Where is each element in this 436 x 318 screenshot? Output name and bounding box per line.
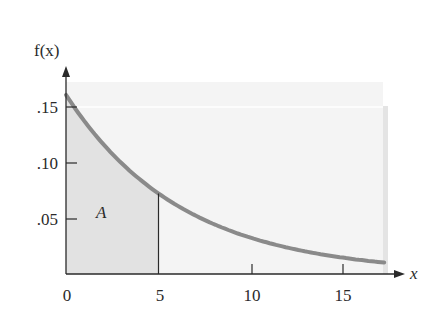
density-chart: f(x) x A .15 .10 .05 0 5 10 15 [0,0,436,318]
x-axis-label: x [409,264,418,283]
x-axis-arrow-icon [394,270,405,278]
y-axis-label: f(x) [34,41,59,60]
x-tick-label-10: 10 [244,286,261,305]
x-tick-label-15: 15 [335,286,352,305]
x-tick-label-0: 0 [63,286,72,305]
y-tick-label-05: .05 [37,210,58,229]
y-tick-label-10: .10 [37,154,58,173]
panel-shadow [383,106,388,274]
x-tick-label-5: 5 [156,286,165,305]
area-label: A [95,203,107,222]
y-tick-label-15: .15 [37,98,58,117]
y-axis-arrow-icon [62,66,70,77]
